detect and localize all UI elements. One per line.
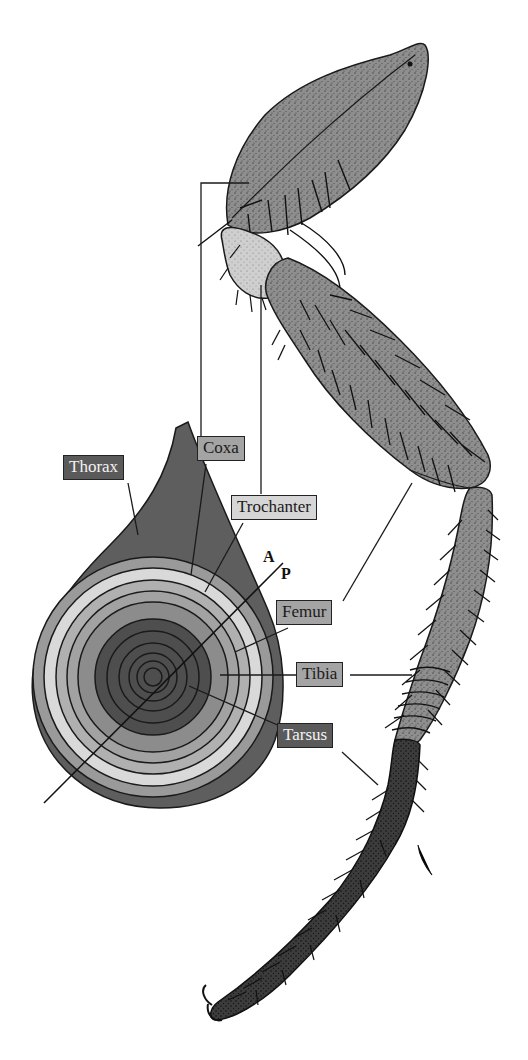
tarsus-core	[95, 619, 211, 735]
axis-label-anterior: A	[263, 548, 275, 566]
label-tarsus: Tarsus	[277, 723, 333, 748]
label-femur: Femur	[276, 600, 332, 625]
coxa-segment	[227, 43, 429, 233]
axis-label-posterior: P	[281, 565, 291, 583]
label-tibia: Tibia	[296, 662, 343, 687]
leg-diagram	[0, 0, 528, 1060]
label-coxa: Coxa	[197, 436, 245, 461]
leg-illustration	[198, 43, 500, 1020]
femur-segment	[266, 258, 490, 488]
femur-leader	[343, 483, 412, 601]
fate-map-rings	[33, 557, 273, 797]
label-trochanter: Trochanter	[231, 495, 317, 520]
label-thorax: Thorax	[63, 455, 124, 480]
